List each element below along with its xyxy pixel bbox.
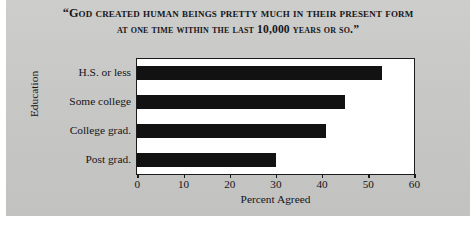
x-tick-label: 30 <box>261 178 291 190</box>
x-tick-label: 60 <box>399 178 429 190</box>
chart-title: “God created human beings pretty much in… <box>14 6 462 37</box>
y-axis-tick-labels: H.S. or lessSome collegeCollege grad.Pos… <box>34 58 131 173</box>
x-tick-label: 0 <box>122 178 152 190</box>
x-tick-label: 40 <box>307 178 337 190</box>
y-axis-tick-label: College grad. <box>70 124 131 136</box>
bar <box>137 66 382 80</box>
chart-title-line-1: “God created human beings pretty much in… <box>63 6 414 20</box>
chart-title-line-2: at one time within the last 10,000 years… <box>14 22 462 38</box>
bar-series <box>137 59 414 174</box>
x-tick-label: 10 <box>169 178 199 190</box>
bar-fill <box>137 66 382 80</box>
bar-fill <box>137 124 326 138</box>
y-axis-tick-label: Post grad. <box>85 153 131 165</box>
plot-area <box>136 58 415 175</box>
bar-fill <box>137 95 345 109</box>
x-axis-label: Percent Agreed <box>136 193 415 205</box>
x-tick-label: 20 <box>215 178 245 190</box>
x-tick-label: 50 <box>353 178 383 190</box>
y-axis-tick-label: H.S. or less <box>78 66 131 78</box>
bar <box>137 124 326 138</box>
bar-fill <box>137 153 276 167</box>
x-axis-ticks: 0102030405060 <box>136 174 415 190</box>
panel-edge <box>6 216 470 219</box>
bar <box>137 95 345 109</box>
figure: “God created human beings pretty much in… <box>0 0 476 229</box>
y-axis-tick-label: Some college <box>69 95 131 107</box>
bar <box>137 153 276 167</box>
